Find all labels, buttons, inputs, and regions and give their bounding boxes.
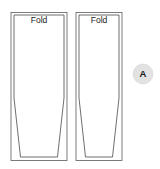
pattern-panel-left[interactable]: Fold <box>11 13 67 161</box>
badge-letter-label: A <box>140 68 147 79</box>
panel-right-cut-outline <box>79 15 119 157</box>
pattern-diagram: Fold Fold A <box>0 0 160 169</box>
panel-right-fold-label: Fold <box>91 15 108 25</box>
panel-left-cut-outline <box>14 15 64 157</box>
pattern-badge-a[interactable]: A <box>133 64 153 84</box>
pattern-panel-right[interactable]: Fold <box>76 13 122 161</box>
pattern-diagram-canvas: Fold Fold A <box>0 0 160 169</box>
panel-left-fold-label: Fold <box>31 15 48 25</box>
